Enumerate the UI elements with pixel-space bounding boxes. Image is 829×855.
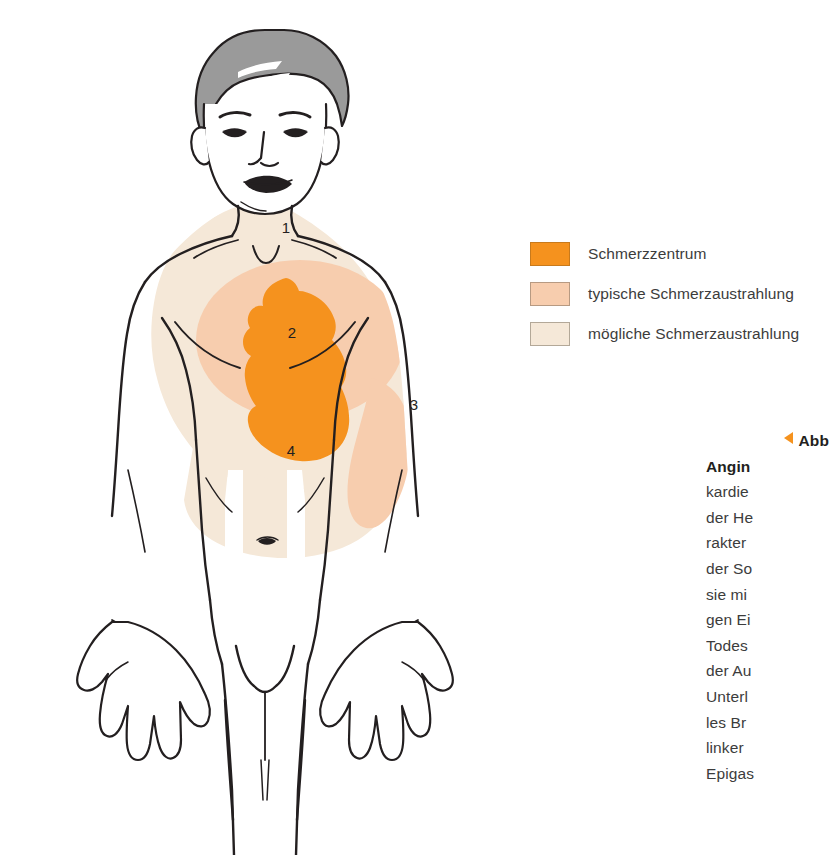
caption-line-text: Epigas xyxy=(706,765,754,782)
caption-line-text: gen Ei xyxy=(706,611,751,628)
legend-label-typical-radiation: typische Schmerzaustrahlung xyxy=(588,285,794,303)
caption-line-text: les Br xyxy=(706,714,746,731)
caption-line-text: rakter xyxy=(706,534,746,551)
caption-line: les Br xyxy=(706,710,829,736)
caption-line-text: Angin xyxy=(706,458,750,475)
legend-item-possible-radiation: mögliche Schmerzaustrahlung xyxy=(530,314,829,354)
caption-line: der So xyxy=(706,556,829,582)
caption-line: sie mi xyxy=(706,582,829,608)
anatomy-figure: 1 2 3 4 xyxy=(0,0,520,855)
legend: Schmerzzentrum typische Schmerzaustrahlu… xyxy=(530,234,829,354)
caption-line: Todes xyxy=(706,633,829,659)
legend-swatch-possible-radiation xyxy=(530,322,570,346)
head xyxy=(191,104,339,214)
caption-line-text: kardie xyxy=(706,483,749,500)
caption-line-text: linker xyxy=(706,739,744,756)
caption-line: Epigas xyxy=(706,761,829,787)
caption-line: der Au xyxy=(706,658,829,684)
caption-line: kardie xyxy=(706,479,829,505)
caption-line-text: der So xyxy=(706,560,752,577)
legend-item-typical-radiation: typische Schmerzaustrahlung xyxy=(530,274,829,314)
zone-label-1: 1 xyxy=(282,219,290,236)
legend-label-possible-radiation: mögliche Schmerzaustrahlung xyxy=(588,325,799,343)
caption-line-text: der He xyxy=(706,509,753,526)
zone-label-3: 3 xyxy=(410,396,418,413)
caption-line: der He xyxy=(706,505,829,531)
caption-line-text: sie mi xyxy=(706,586,747,603)
legend-swatch-typical-radiation xyxy=(530,282,570,306)
legend-label-pain-center: Schmerzzentrum xyxy=(588,245,707,263)
caption-triangle-icon xyxy=(784,432,793,444)
caption-line: Angin xyxy=(706,454,829,480)
legend-swatch-pain-center xyxy=(530,242,570,266)
figure-caption: AbbAnginkardieder Herakterder Sosie mige… xyxy=(706,428,829,786)
legend-item-pain-center: Schmerzzentrum xyxy=(530,234,829,274)
caption-line: linker xyxy=(706,735,829,761)
caption-line: gen Ei xyxy=(706,607,829,633)
caption-line: Unterl xyxy=(706,684,829,710)
caption-line: Abb xyxy=(706,428,829,454)
zone-label-2: 2 xyxy=(288,324,296,341)
caption-line-text: Abb xyxy=(799,432,829,449)
caption-line: rakter xyxy=(706,530,829,556)
zone-label-4: 4 xyxy=(287,442,295,459)
caption-line-text: der Au xyxy=(706,662,751,679)
caption-line-text: Todes xyxy=(706,637,748,654)
caption-line-text: Unterl xyxy=(706,688,748,705)
